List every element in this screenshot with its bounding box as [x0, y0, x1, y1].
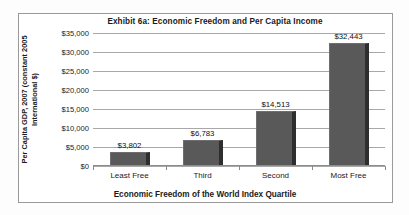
bar[interactable]	[329, 43, 369, 166]
x-axis-tick-mark	[93, 166, 94, 170]
y-axis-tick-label: $15,000	[43, 105, 89, 114]
bar-slot: $32,443	[312, 33, 385, 166]
bar-slot: $14,513	[239, 33, 312, 166]
plot-area: $3,802$6,783$14,513$32,443	[93, 33, 385, 166]
x-axis-tick-mark	[312, 166, 313, 170]
bar[interactable]	[183, 140, 223, 166]
x-axis-title: Economic Freedom of the World Index Quar…	[30, 190, 380, 199]
y-axis-tick-label: $35,000	[43, 29, 89, 38]
x-axis-category-label: Most Free	[330, 171, 366, 180]
bar-slot: $3,802	[93, 33, 166, 166]
bar-value-label: $6,783	[191, 129, 215, 138]
y-axis-tick-label: $10,000	[43, 124, 89, 133]
y-axis-tick-label: $25,000	[43, 67, 89, 76]
y-axis-title: Per Capita GDP, 2007 (constant 2005 Inte…	[19, 33, 41, 166]
x-axis-tick-mark	[166, 166, 167, 170]
x-axis-category-label: Least Free	[110, 171, 148, 180]
y-axis-title-container: Per Capita GDP, 2007 (constant 2005 Inte…	[19, 33, 41, 166]
x-axis-category-labels: Least FreeThirdSecondMost Free	[93, 171, 385, 185]
bar-value-label: $14,513	[261, 100, 289, 109]
bar-value-label: $3,802	[118, 141, 142, 150]
bar-value-label: $32,443	[334, 32, 362, 41]
x-axis-tick-mark	[239, 166, 240, 170]
x-axis-category-label: Third	[193, 171, 211, 180]
chart-title: Exhibit 6a: Economic Freedom and Per Cap…	[60, 17, 370, 26]
y-axis-tick-label: $5,000	[43, 143, 89, 152]
bar[interactable]	[110, 152, 150, 166]
y-axis-tick-labels: $0$5,000$10,000$15,000$20,000$25,000$30,…	[41, 33, 89, 166]
bar[interactable]	[256, 111, 296, 166]
y-axis-tick-label: $0	[43, 162, 89, 171]
y-axis-tick-label: $20,000	[43, 86, 89, 95]
x-axis-category-label: Second	[262, 171, 289, 180]
chart-page: Exhibit 6a: Economic Freedom and Per Cap…	[0, 0, 409, 215]
bar-slot: $6,783	[166, 33, 239, 166]
y-axis-tick-label: $30,000	[43, 48, 89, 57]
x-axis-tick-mark	[385, 166, 386, 170]
